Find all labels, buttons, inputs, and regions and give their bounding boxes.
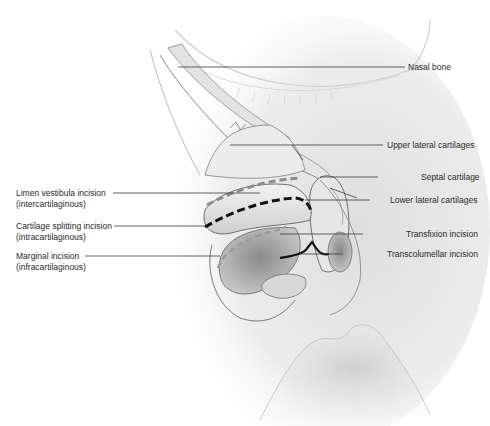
- label-nasal-bone: Nasal bone: [408, 62, 451, 73]
- nasal-anatomy-figure: Limen vestibula incision (intercartilagi…: [0, 0, 490, 426]
- label-title: Marginal incision: [16, 251, 79, 261]
- label-transcolumellar-incision: Transcolumellar incision: [387, 249, 478, 260]
- label-cartilage-splitting-incision: Cartilage splitting incision (intracarti…: [16, 221, 112, 243]
- label-lower-lateral-cartilages: Lower lateral cartilages: [390, 195, 477, 206]
- label-septal-cartilage: Septal cartilage: [421, 172, 480, 183]
- label-upper-lateral-cartilages: Upper lateral cartilages: [387, 140, 474, 151]
- label-subtitle: (intercartilaginous): [16, 199, 106, 210]
- label-title: Limen vestibula incision: [16, 188, 106, 198]
- label-limen-vestibula-incision: Limen vestibula incision (intercartilagi…: [16, 188, 106, 210]
- label-transfixion-incision: Transfixion incision: [406, 229, 478, 240]
- label-title: Cartilage splitting incision: [16, 221, 112, 231]
- label-subtitle: (intracartilaginous): [16, 232, 112, 243]
- label-marginal-incision: Marginal incision (infracartilaginous): [16, 251, 86, 273]
- label-subtitle: (infracartilaginous): [16, 262, 86, 273]
